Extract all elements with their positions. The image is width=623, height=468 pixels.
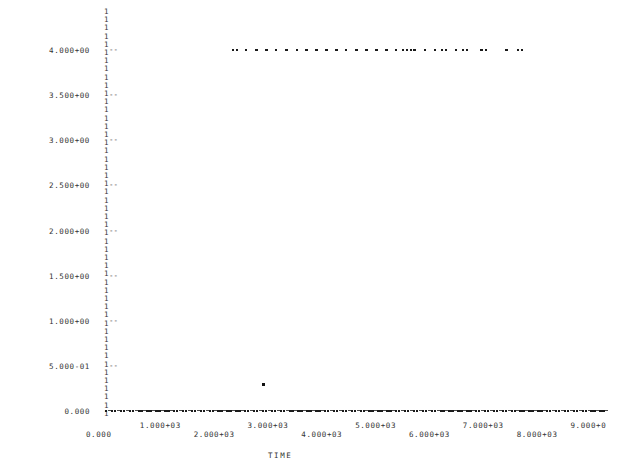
x-axis-tick-label: 7.000+03 [463,421,504,430]
y-axis-column-glyph: 1 [104,74,109,82]
y-axis-tick-mark: -- [109,91,118,99]
x-axis-tick-label: 8.000+03 [517,430,558,439]
x-axis-tick-label: 2.000+03 [194,430,235,439]
y-axis-tick-label: 2.500+00 [18,181,90,190]
y-axis-column-glyph: 1 [104,115,109,123]
data-point [325,49,327,51]
y-axis-tick-label: 1.000+00 [18,317,90,326]
data-point [424,49,426,51]
data-point [402,49,404,51]
y-axis-tick-mark: -- [109,181,118,189]
data-point [335,49,337,51]
y-axis-column-glyph: 1 [104,147,109,155]
data-point [236,49,238,51]
x-axis-tick-label: 3.000+03 [247,421,288,430]
data-point [455,49,457,51]
data-point [521,49,523,51]
data-point [434,49,436,51]
data-point [305,49,307,51]
y-axis-column-glyph: 1 [104,188,109,196]
y-axis-column-glyph: 1 [104,24,109,32]
data-point [517,49,519,51]
y-axis-tick-label: 2.000+00 [18,227,90,236]
y-axis-tick-mark: -- [109,362,118,370]
data-point [296,49,298,51]
y-axis-column-glyph: 1 [104,393,109,401]
y-axis-tick-mark: -- [109,317,118,325]
y-axis-tick-mark: -- [109,46,118,54]
x-axis-title: TIME [268,451,292,460]
y-axis-column-glyph: 1 [104,311,109,319]
y-axis-column-glyph: 1 [104,229,109,237]
y-axis-column-glyph: 1 [104,279,109,287]
y-axis-column-glyph: 1 [104,65,109,73]
data-point [262,383,265,386]
data-point [355,49,357,51]
y-axis-column-glyph: 1 [104,270,109,278]
y-axis-tick-label: 1.500+00 [18,272,90,281]
y-axis-tick-label: 4.000+00 [18,46,90,55]
y-axis-tick-label: 5.000-01 [18,362,90,371]
data-point [365,49,367,51]
data-point [265,49,267,51]
x-axis-tick-label: 0.000 [86,430,112,439]
data-point [505,49,507,51]
x-axis-tick-label: 5.000+03 [355,421,396,430]
x-axis-tick-label: 1.000+03 [140,421,181,430]
x-axis-tick-label: 9.000+0 [570,421,606,430]
y-axis-column-glyph: 1 [104,156,109,164]
data-point [315,49,317,51]
y-axis-tick-label: 3.500+00 [18,91,90,100]
y-axis-tick-label: 0.000 [18,407,90,416]
y-axis-column-glyph: 1 [104,106,109,114]
data-point [406,49,408,51]
y-axis-column-glyph: 1 [104,320,109,328]
data-point [441,49,443,51]
data-point [413,49,415,51]
y-axis-tick-mark: -- [109,136,118,144]
x-axis-tick-label: 6.000+03 [409,430,450,439]
y-axis-column-glyph: 1 [104,197,109,205]
data-point [395,49,397,51]
data-point [375,49,377,51]
data-point [285,49,287,51]
y-axis-column-glyph: 1 [104,402,109,410]
y-axis-column-glyph: 1 [104,361,109,369]
data-point [232,49,234,51]
y-axis-column-glyph: 1 [104,33,109,41]
data-point [275,49,277,51]
y-axis-column-glyph: 1 [104,352,109,360]
x-axis-tick-label: 4.000+03 [301,430,342,439]
data-point [466,49,468,51]
data-point [462,49,464,51]
data-point [255,49,257,51]
y-axis-column-glyph: 1 [104,238,109,246]
ascii-scatter-plot: 1111111111111111111111111111111111111111… [0,0,623,468]
data-point [410,49,412,51]
y-axis-tick-label: 3.000+00 [18,136,90,145]
data-point [345,49,347,51]
data-point [485,49,487,51]
data-point [605,410,608,411]
y-axis-tick-mark: -- [109,227,118,235]
y-axis-tick-mark: -- [109,272,118,280]
data-point [480,49,482,51]
data-point [445,49,447,51]
data-point [385,49,387,51]
data-point [245,49,247,51]
